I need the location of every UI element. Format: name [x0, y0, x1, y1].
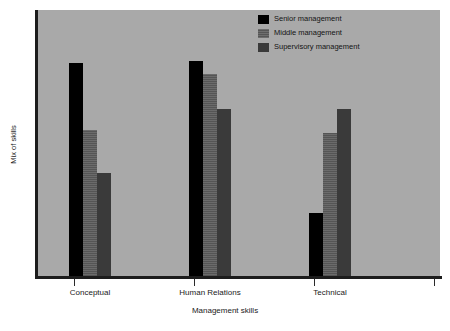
- plot-area: [37, 10, 440, 277]
- legend-swatch-icon-middle: [258, 29, 269, 38]
- x-axis-label-human-relations: Human Relations: [160, 288, 260, 297]
- x-axis-tick-2: [314, 279, 315, 286]
- y-axis-title: Mix of skills: [9, 110, 18, 180]
- x-axis-tick-3: [434, 279, 435, 286]
- legend-label-senior: Senior management: [274, 14, 342, 24]
- bar-human-relations-middle-management: [203, 74, 217, 277]
- bars-layer: [37, 10, 440, 277]
- bar-conceptual-senior-management: [69, 63, 83, 277]
- bar-technical-supervisory-management: [337, 109, 351, 277]
- bar-chart-figure: ConceptualHuman RelationsTechnical Manag…: [0, 0, 450, 331]
- bar-conceptual-supervisory-management: [97, 173, 111, 277]
- x-axis-line: [35, 276, 442, 279]
- legend-item-supervisory: Supervisory management: [258, 42, 359, 52]
- bar-conceptual-middle-management: [83, 130, 97, 277]
- bar-technical-middle-management: [323, 133, 337, 277]
- x-axis-title: Management skills: [0, 306, 450, 315]
- bar-technical-senior-management: [309, 213, 323, 277]
- legend-label-middle: Middle management: [274, 28, 342, 38]
- x-axis-tick-0: [74, 279, 75, 286]
- legend-swatch-icon-senior: [258, 15, 269, 24]
- legend-item-senior: Senior management: [258, 14, 359, 24]
- x-axis-label-technical: Technical: [280, 288, 380, 297]
- legend-swatch-icon-supervisory: [258, 43, 269, 52]
- bar-human-relations-supervisory-management: [217, 109, 231, 277]
- bar-human-relations-senior-management: [189, 61, 203, 277]
- y-axis-line: [35, 10, 38, 278]
- chart-legend: Senior managementMiddle managementSuperv…: [258, 14, 359, 52]
- x-axis-label-conceptual: Conceptual: [40, 288, 140, 297]
- x-axis-tick-1: [194, 279, 195, 286]
- legend-item-middle: Middle management: [258, 28, 359, 38]
- legend-label-supervisory: Supervisory management: [274, 42, 359, 52]
